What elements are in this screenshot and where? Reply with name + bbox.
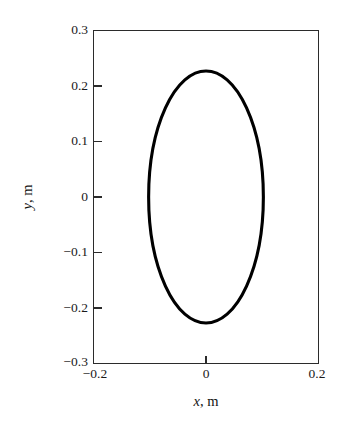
y-axis-tick-labels: 0.3 0.2 0.1 0 −0.1 −0.2 −0.3 [64,22,89,369]
x-tick-label-1: 0 [203,366,210,381]
data-series-group [149,71,264,323]
x-tick-label-0: −0.2 [83,366,108,381]
x-tick-label-2: 0.2 [309,366,326,381]
y-tick-label-3: 0 [81,189,88,204]
y-axis-ticks [94,31,102,364]
y-tick-label-0: 0.3 [71,22,88,37]
figure-canvas: 0.3 0.2 0.1 0 −0.1 −0.2 −0.3 −0.2 0 0.2 … [0,0,344,431]
plot-frame [94,31,319,364]
chart-plot: 0.3 0.2 0.1 0 −0.1 −0.2 −0.3 −0.2 0 0.2 … [0,0,344,431]
trajectory-curve [149,71,264,323]
y-tick-label-2: 0.1 [71,133,88,148]
y-tick-label-4: −0.1 [64,244,89,259]
x-axis-title-unit: , m [200,393,219,409]
y-tick-label-5: −0.2 [64,300,89,315]
y-axis-title-unit: , m [19,184,35,203]
x-axis-ticks [94,356,319,364]
y-tick-label-1: 0.2 [71,78,88,93]
y-axis-title: y, m [19,184,35,212]
x-axis-title: x, m [193,393,220,409]
x-axis-tick-labels: −0.2 0 0.2 [83,366,326,381]
